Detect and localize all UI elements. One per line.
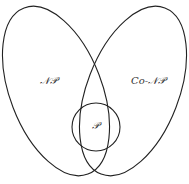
conp-set-ellipse xyxy=(58,0,189,184)
conp-label: Co-𝒩𝒫 xyxy=(131,75,168,86)
np-set-ellipse xyxy=(0,0,131,184)
complexity-venn-diagram: 𝒩𝒫 Co-𝒩𝒫 𝒫 xyxy=(0,0,189,184)
p-label: 𝒫 xyxy=(92,120,102,131)
np-label: 𝒩𝒫 xyxy=(40,75,60,86)
